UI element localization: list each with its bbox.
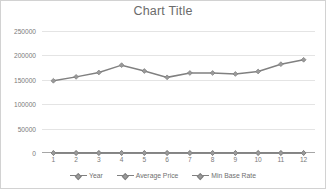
- legend-label: Min Base Rate: [211, 172, 256, 179]
- data-point-marker[interactable]: [301, 57, 306, 62]
- data-point-marker[interactable]: [278, 151, 283, 156]
- data-point-marker[interactable]: [51, 151, 56, 156]
- legend-item-year[interactable]: Year: [70, 172, 103, 179]
- x-axis-tick-label: 1: [52, 156, 56, 163]
- y-axis-tick-label: 250000: [0, 28, 36, 35]
- series-min-base-rate[interactable]: [51, 151, 306, 156]
- data-point-marker[interactable]: [187, 151, 192, 156]
- series-average-price[interactable]: [51, 57, 306, 83]
- x-axis-tick-label: 7: [188, 156, 192, 163]
- chart-title: Chart Title: [1, 4, 325, 18]
- data-point-marker[interactable]: [278, 62, 283, 67]
- data-point-marker[interactable]: [142, 151, 147, 156]
- chart-container[interactable]: Chart Title 0500001000001500002000002500…: [0, 0, 326, 189]
- x-axis-tick-label: 8: [211, 156, 215, 163]
- legend-label: Year: [89, 172, 103, 179]
- data-point-marker[interactable]: [165, 151, 170, 156]
- x-axis-tick-label: 3: [97, 156, 101, 163]
- data-point-marker[interactable]: [187, 71, 192, 76]
- legend-item-average-price[interactable]: Average Price: [117, 172, 179, 179]
- y-axis-tick-label: 150000: [0, 76, 36, 83]
- chart-legend[interactable]: YearAverage PriceMin Base Rate: [1, 172, 325, 179]
- data-point-marker[interactable]: [256, 69, 261, 74]
- series-layer: [42, 31, 315, 153]
- y-axis-tick-label: 50000: [0, 125, 36, 132]
- data-point-marker[interactable]: [96, 70, 101, 75]
- data-point-marker[interactable]: [165, 75, 170, 80]
- x-axis-tick-label: 5: [143, 156, 147, 163]
- x-axis-tick-label: 11: [277, 156, 284, 163]
- x-axis-tick-label: 4: [120, 156, 124, 163]
- legend-label: Average Price: [136, 172, 179, 179]
- data-point-marker[interactable]: [96, 151, 101, 156]
- data-point-marker[interactable]: [210, 71, 215, 76]
- data-point-marker[interactable]: [233, 151, 238, 156]
- plot-area[interactable]: [42, 31, 315, 153]
- data-point-marker[interactable]: [142, 69, 147, 74]
- x-axis-tick-label: 9: [234, 156, 238, 163]
- data-point-marker[interactable]: [74, 74, 79, 79]
- x-axis-tick-label: 2: [74, 156, 78, 163]
- data-point-marker[interactable]: [233, 72, 238, 77]
- series-line: [53, 60, 303, 81]
- legend-item-min-base-rate[interactable]: Min Base Rate: [192, 172, 256, 179]
- x-axis-tick-label: 12: [300, 156, 307, 163]
- legend-marker-icon: [192, 172, 209, 179]
- data-point-marker[interactable]: [74, 151, 79, 156]
- data-point-marker[interactable]: [119, 151, 124, 156]
- data-point-marker[interactable]: [256, 151, 261, 156]
- x-axis-tick-label: 10: [254, 156, 261, 163]
- data-point-marker[interactable]: [210, 151, 215, 156]
- x-axis-tick-label: 6: [165, 156, 169, 163]
- y-axis-tick-label: 0: [0, 150, 36, 157]
- legend-marker-icon: [117, 172, 134, 179]
- y-axis-tick-label: 200000: [0, 52, 36, 59]
- y-axis-tick-label: 100000: [0, 101, 36, 108]
- data-point-marker[interactable]: [301, 151, 306, 156]
- data-point-marker[interactable]: [51, 78, 56, 83]
- data-point-marker[interactable]: [119, 63, 124, 68]
- legend-marker-icon: [70, 172, 87, 179]
